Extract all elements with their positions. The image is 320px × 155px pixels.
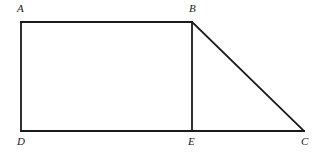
figure-segments	[21, 22, 304, 131]
vertex-label-c: C	[301, 136, 308, 147]
vertex-label-a: A	[17, 3, 24, 14]
vertex-label-e: E	[188, 136, 195, 147]
figure-canvas	[0, 0, 320, 155]
geometry-figure: A B C D E	[0, 0, 320, 155]
vertex-label-b: B	[189, 3, 196, 14]
segment-bc	[192, 22, 304, 131]
vertex-label-d: D	[17, 136, 25, 147]
